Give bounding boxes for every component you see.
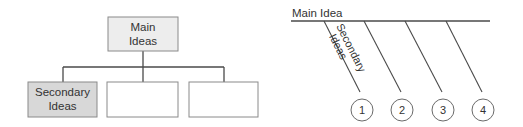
branch-node-4: 4 [472,99,494,121]
secondary-ideas-branch-label: Secondary Ideas [324,22,368,80]
branch-node-2: 2 [391,99,413,121]
diagram-canvas: Main Ideas Secondary Ideas Main Idea Sec… [0,0,523,127]
secondary-ideas-line2: Ideas [48,100,76,112]
main-ideas-line1: Main [131,21,156,33]
branch-node-1: 1 [351,99,373,121]
empty-child-box-3 [189,82,258,117]
fishbone-diagram: Main Idea Secondary Ideas 1 2 3 4 [291,7,494,121]
main-ideas-box: Main Ideas [108,17,178,51]
branch-number-3: 3 [440,104,446,116]
empty-child-box-2 [107,82,178,117]
branch-number-2: 2 [399,104,405,116]
branch-line-2 [364,21,401,92]
tree-connectors [63,51,224,82]
branch-node-3: 3 [432,99,454,121]
branch-line-3 [405,21,442,92]
branch-line-4 [446,21,482,92]
main-idea-label: Main Idea [292,7,343,19]
tree-diagram: Main Ideas Secondary Ideas [28,17,258,117]
secondary-ideas-box: Secondary Ideas [28,82,97,117]
main-ideas-line2: Ideas [129,35,157,47]
secondary-ideas-line1: Secondary [35,86,90,98]
branch-number-1: 1 [359,104,365,116]
branch-number-4: 4 [480,104,486,116]
